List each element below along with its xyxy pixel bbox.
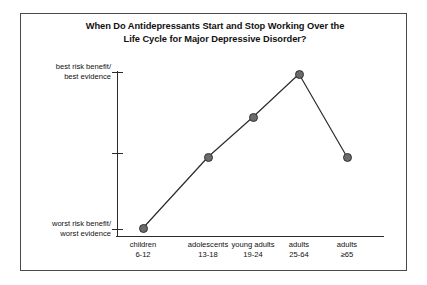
chart-figure: When Do Antidepressants Start and Stop W… (0, 0, 427, 285)
y-axis-tick-middle (112, 153, 123, 154)
x-axis-label-children-range: 6-12 (106, 250, 180, 260)
y-axis-tick-bottom (112, 229, 123, 230)
y-axis-label-worst-line-1: worst risk benefit/ (19, 219, 111, 229)
x-axis-label-children-name: children (106, 240, 180, 250)
y-axis-line (117, 71, 118, 237)
y-axis-label-best: best risk benefit/ best evidence (19, 62, 111, 81)
y-axis-label-worst: worst risk benefit/ worst evidence (19, 219, 111, 238)
y-axis-label-best-line-2: best evidence (19, 72, 111, 82)
chart-title-line-1: When Do Antidepressants Start and Stop W… (40, 20, 390, 33)
x-axis-label-adults-65-name: adults (310, 240, 384, 250)
data-point-1 (204, 153, 213, 162)
data-point-2 (249, 113, 258, 122)
data-point-0 (139, 224, 148, 233)
data-point-3 (295, 70, 304, 79)
x-axis-label-adults-65: adults ≥65 (310, 240, 384, 260)
y-axis-label-worst-line-2: worst evidence (19, 229, 111, 239)
x-axis-line (116, 236, 384, 237)
chart-title: When Do Antidepressants Start and Stop W… (40, 20, 390, 45)
x-axis-label-children: children 6-12 (106, 240, 180, 260)
x-axis-label-adults-65-range: ≥65 (310, 250, 384, 260)
chart-title-line-2: Life Cycle for Major Depressive Disorder… (40, 33, 390, 46)
data-point-4 (343, 153, 352, 162)
y-axis-tick-top (112, 72, 123, 73)
y-axis-label-best-line-1: best risk benefit/ (19, 62, 111, 72)
